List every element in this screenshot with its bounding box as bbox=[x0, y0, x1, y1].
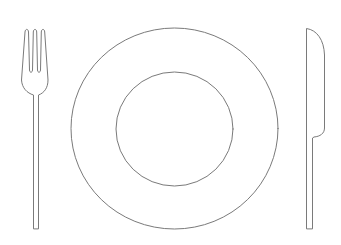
plate-icon bbox=[71, 28, 278, 229]
plate-well bbox=[116, 72, 233, 186]
plate-rim bbox=[71, 28, 278, 229]
fork-icon bbox=[22, 29, 49, 228]
place-setting-illustration: Place setting bbox=[0, 0, 341, 245]
place-setting-canvas bbox=[0, 0, 341, 245]
knife-icon bbox=[307, 29, 325, 229]
